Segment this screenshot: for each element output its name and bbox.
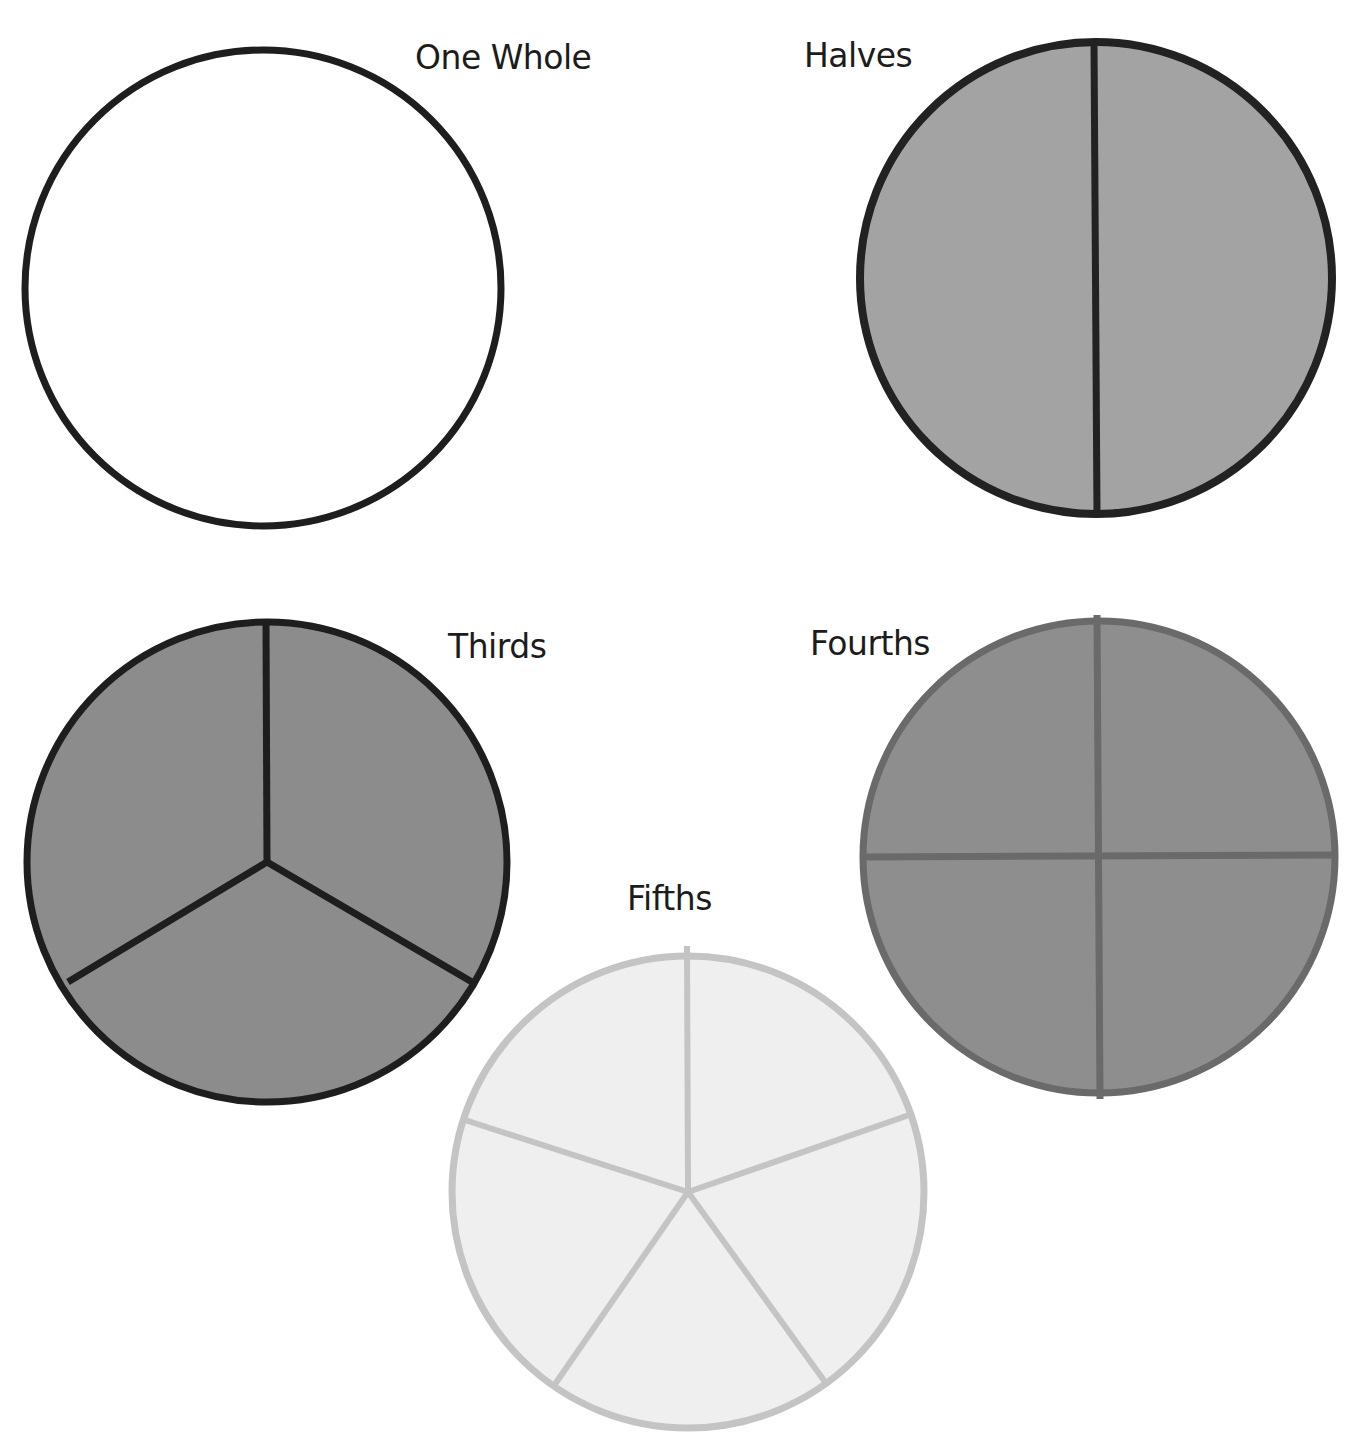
fourths-divider-horizontal <box>866 855 1333 857</box>
circle-halves <box>860 42 1332 514</box>
fraction-circles-diagram: One Whole Halves Thirds Fourths Fifths <box>0 0 1346 1436</box>
label-thirds: Thirds <box>448 630 546 663</box>
circle-fifths <box>452 946 924 1428</box>
whole-circle-outline <box>25 50 501 526</box>
label-halves: Halves <box>804 39 912 72</box>
circle-fourths <box>863 615 1335 1099</box>
label-fourths: Fourths <box>810 627 930 660</box>
thirds-divider-top <box>266 622 267 862</box>
circle-thirds <box>27 622 507 1102</box>
fifths-divider-1 <box>687 946 688 1192</box>
halves-divider-vertical <box>1094 42 1097 514</box>
label-fifths: Fifths <box>627 882 712 915</box>
label-one-whole: One Whole <box>415 41 591 74</box>
fraction-circles-figure <box>0 0 1346 1436</box>
circle-one-whole <box>25 50 501 526</box>
